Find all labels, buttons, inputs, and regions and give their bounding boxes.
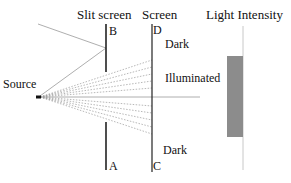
point-c: C — [153, 160, 161, 172]
slit-screen-title: Slit screen — [77, 8, 132, 21]
screen-title: Screen — [142, 8, 177, 21]
intensity-bar — [227, 56, 243, 137]
point-b: B — [109, 25, 117, 37]
dark-bottom-label: Dark — [163, 144, 187, 156]
point-d: D — [153, 24, 162, 36]
slit-diagram — [0, 0, 291, 183]
source-label: Source — [3, 78, 36, 90]
dark-top-label: Dark — [165, 38, 189, 50]
point-a: A — [109, 160, 118, 172]
illuminated-label: Illuminated — [165, 72, 220, 84]
incident-ray — [38, 24, 106, 48]
light-intensity-title: Light Intensity — [206, 8, 283, 21]
reflected-ray — [40, 48, 106, 96]
source-point — [36, 96, 41, 99]
